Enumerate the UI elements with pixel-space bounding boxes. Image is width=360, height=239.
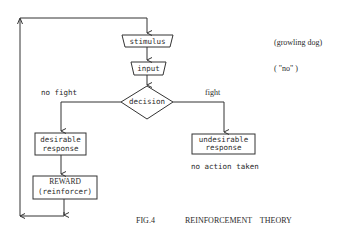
figure-label: FIG.4 [136,217,155,225]
figure-title: REINFORCEMENT THEORY [185,217,292,225]
feedback-top-line [20,18,147,33]
stimulus-label: stimulus [122,38,173,46]
stimulus-example-annotation: (growling dog) [274,39,322,47]
no-fight-label: no fight [41,89,77,97]
input-example-annotation: ( "no" ) [274,65,298,73]
desirable-label-line2: response [35,145,86,153]
undesirable-label-line2: response [192,144,255,152]
decision-label: decision [121,98,173,106]
input-label: input [131,65,166,73]
desirable-label-line1: desirable [35,136,86,144]
flowchart-lines [0,0,360,239]
reward-label-line1: REWARD [33,178,97,186]
reward-label-line2: (reinforcer) [33,188,97,196]
no-action-label: no action taken [191,163,259,171]
undesirable-label-line1: undesirable [192,136,255,144]
fight-label: fight [205,89,220,97]
